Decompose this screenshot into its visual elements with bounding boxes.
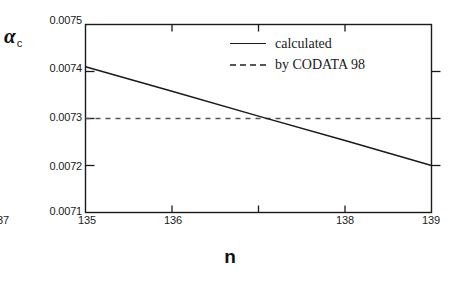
series-line-calculated (86, 67, 432, 166)
plot-area (0, 0, 460, 283)
alpha-c-vs-n-chart: αc 0.0075 0.0074 0.0073 0.0072 0.0071 13… (0, 0, 460, 283)
data-lines (86, 67, 432, 166)
